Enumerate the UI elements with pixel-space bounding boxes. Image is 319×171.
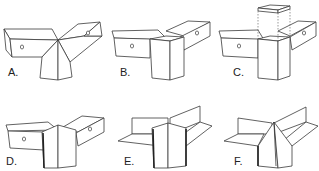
panel-f-label: F. (234, 155, 243, 167)
panel-b-label: B. (120, 66, 130, 78)
panel-a-drawing (4, 22, 102, 80)
panel-e-label: E. (124, 155, 134, 167)
panel-d-drawing (6, 116, 104, 168)
panel-a-label: A. (8, 66, 18, 78)
joint-diagram (0, 0, 319, 171)
panel-c-label: C. (233, 66, 244, 78)
panel-d-label: D. (6, 155, 17, 167)
